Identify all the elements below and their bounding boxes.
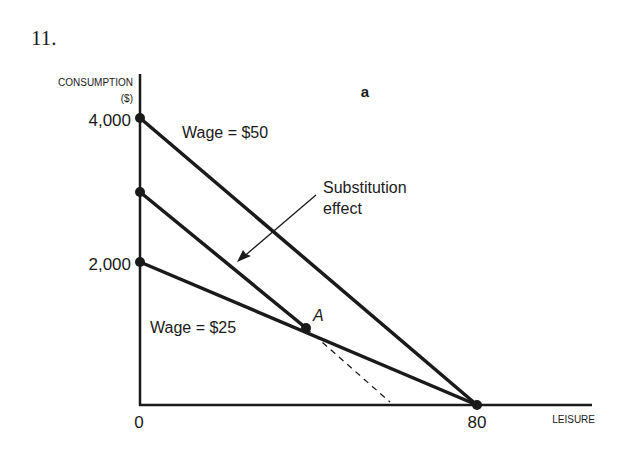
x-tick-0: 0 <box>134 413 143 432</box>
substitution-arrow-shaft <box>241 195 316 259</box>
y-axis-unit: ($) <box>121 93 133 104</box>
point-a <box>301 323 311 333</box>
point-4000 <box>135 113 145 123</box>
panel-label: a <box>361 83 370 100</box>
point-2000 <box>135 257 145 267</box>
leisure-consumption-chart: CONSUMPTION ($) 4,000 2,000 0 80 LEISURE… <box>0 0 636 454</box>
wage-25-label: Wage = $25 <box>150 319 236 336</box>
wage-50-budget-line <box>140 118 477 405</box>
x-tick-80: 80 <box>468 413 487 432</box>
x-axis-title: LEISURE <box>552 414 595 425</box>
wage-50-label: Wage = $50 <box>182 124 268 141</box>
substitution-label-line2: effect <box>323 200 362 217</box>
y-axis-title: CONSUMPTION <box>58 77 133 88</box>
y-tick-4000: 4,000 <box>88 111 131 130</box>
substitution-label-line1: Substitution <box>323 179 407 196</box>
y-tick-2000: 2,000 <box>88 255 131 274</box>
point-a-label: A <box>312 307 324 324</box>
compensated-budget-line <box>140 192 306 328</box>
point-80 <box>472 400 482 410</box>
point-3000 <box>135 187 145 197</box>
